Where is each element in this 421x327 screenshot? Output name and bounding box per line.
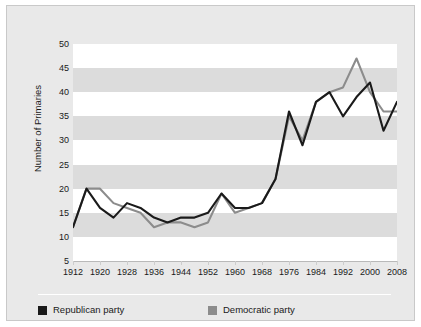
legend-swatch: [38, 306, 47, 315]
legend-item: Republican party: [38, 305, 124, 315]
x-axis-tick-label: 2008: [380, 267, 414, 278]
x-axis-tick-mark: [73, 261, 74, 265]
y-axis-tick-label: 35: [29, 112, 69, 121]
legend-label: Republican party: [53, 305, 124, 315]
y-axis-tick-label: 15: [29, 209, 69, 218]
y-axis-tick-label: 10: [29, 233, 69, 242]
y-axis-tick-labels: 5045403530252015105: [24, 44, 69, 261]
y-axis-tick-label: 20: [29, 185, 69, 194]
y-axis-tick-label: 5: [29, 257, 69, 266]
y-axis-tick-label: 50: [29, 40, 69, 49]
x-axis-tick-mark: [208, 261, 209, 265]
chart-panel: Number of Primaries 5045403530252015105 …: [12, 11, 409, 316]
legend-item: Democratic party: [208, 305, 295, 315]
legend-swatch: [208, 306, 217, 315]
x-axis-tick-mark: [235, 261, 236, 265]
legend-label: Democratic party: [223, 305, 295, 315]
x-axis-tick-labels: 1912192019281936194419521960196819761984…: [64, 267, 408, 281]
x-axis-tick-mark: [154, 261, 155, 265]
y-axis-tick-label: 30: [29, 136, 69, 145]
series-lines: [73, 44, 397, 261]
x-axis-tick-mark: [397, 261, 398, 265]
x-axis-tick-mark: [181, 261, 182, 265]
x-axis-tick-mark: [316, 261, 317, 265]
legend-divider: [38, 294, 391, 295]
x-axis-tick-mark: [370, 261, 371, 265]
chart-figure: Number of Primaries 5045403530252015105 …: [0, 0, 421, 327]
x-axis-tick-mark: [127, 261, 128, 265]
y-axis-tick-label: 45: [29, 64, 69, 73]
x-axis-tick-mark: [289, 261, 290, 265]
x-axis-tick-mark: [343, 261, 344, 265]
y-axis-tick-label: 40: [29, 88, 69, 97]
y-axis-tick-label: 25: [29, 161, 69, 170]
x-axis-tick-mark: [100, 261, 101, 265]
x-axis-tick-mark: [262, 261, 263, 265]
plot-area: [73, 44, 397, 261]
line-democratic-party: [73, 58, 397, 227]
